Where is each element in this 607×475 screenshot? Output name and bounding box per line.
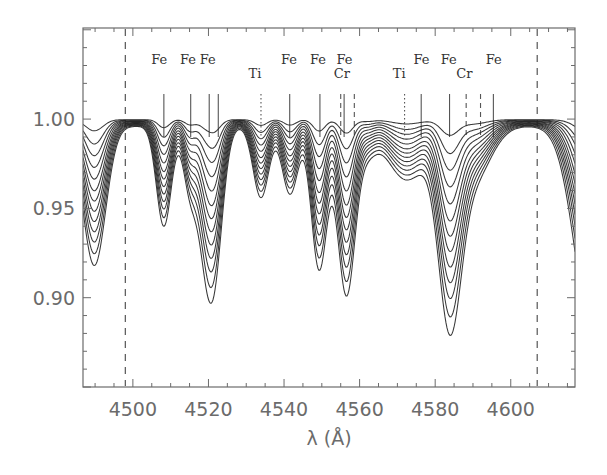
- element-label-fe: Fe: [180, 52, 196, 67]
- x-tick-label: 4580: [411, 398, 459, 420]
- plot-frame: [83, 28, 575, 387]
- x-tick-label: 4600: [487, 398, 535, 420]
- element-labels: FeFeFeTiFeFeFeCrTiFeFeCrFe: [151, 52, 502, 81]
- element-label-fe: Fe: [486, 52, 502, 67]
- x-tick-label: 4560: [335, 398, 383, 420]
- x-tick-label: 4540: [260, 398, 308, 420]
- y-axis-tick-labels: 0.900.951.00: [33, 108, 75, 309]
- element-label-fe: Fe: [336, 52, 352, 67]
- y-tick-label: 0.90: [33, 287, 75, 309]
- x-axis-tick-labels: 450045204540456045804600: [109, 398, 535, 420]
- element-label-fe: Fe: [200, 52, 216, 67]
- x-tick-label: 4500: [109, 398, 157, 420]
- element-label-fe: Fe: [281, 52, 297, 67]
- x-tick-label: 4520: [184, 398, 232, 420]
- y-axis-ticks: [83, 30, 575, 387]
- element-label-ti: Ti: [393, 66, 406, 81]
- spectrum-chart: FeFeFeTiFeFeFeCrTiFeFeCrFe 4500452045404…: [0, 0, 607, 475]
- x-axis-title: λ (Å): [306, 427, 351, 449]
- element-label-cr: Cr: [334, 66, 351, 81]
- y-tick-label: 0.95: [33, 197, 75, 219]
- element-label-ti: Ti: [249, 66, 262, 81]
- line-markers: [164, 94, 494, 137]
- element-label-cr: Cr: [456, 66, 473, 81]
- element-label-fe: Fe: [414, 52, 430, 67]
- spectrum-curves: [83, 120, 575, 336]
- y-tick-label: 1.00: [33, 108, 75, 130]
- element-label-fe: Fe: [441, 52, 457, 67]
- element-label-fe: Fe: [310, 52, 326, 67]
- element-label-fe: Fe: [151, 52, 167, 67]
